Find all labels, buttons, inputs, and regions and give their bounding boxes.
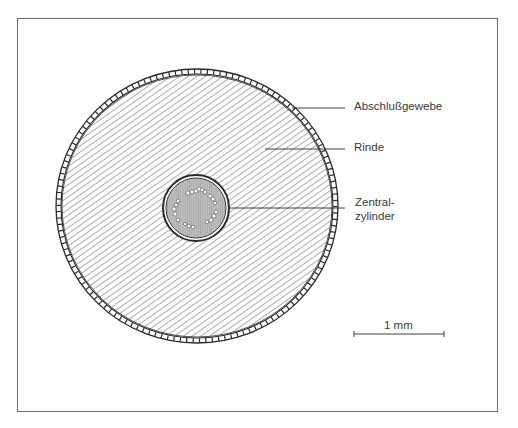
scale-bar-label: 1 mm [384,319,413,331]
zentralzylinder-core [163,175,229,241]
scale-bar [354,331,444,337]
root-cross-section-drawing [0,0,518,428]
label-zentralzylinder-line2: zylinder [355,210,395,223]
label-abschlussgewebe: Abschlußgewebe [354,100,442,113]
label-zentralzylinder-line1: Zentral- [355,196,395,209]
label-rinde: Rinde [354,141,384,154]
